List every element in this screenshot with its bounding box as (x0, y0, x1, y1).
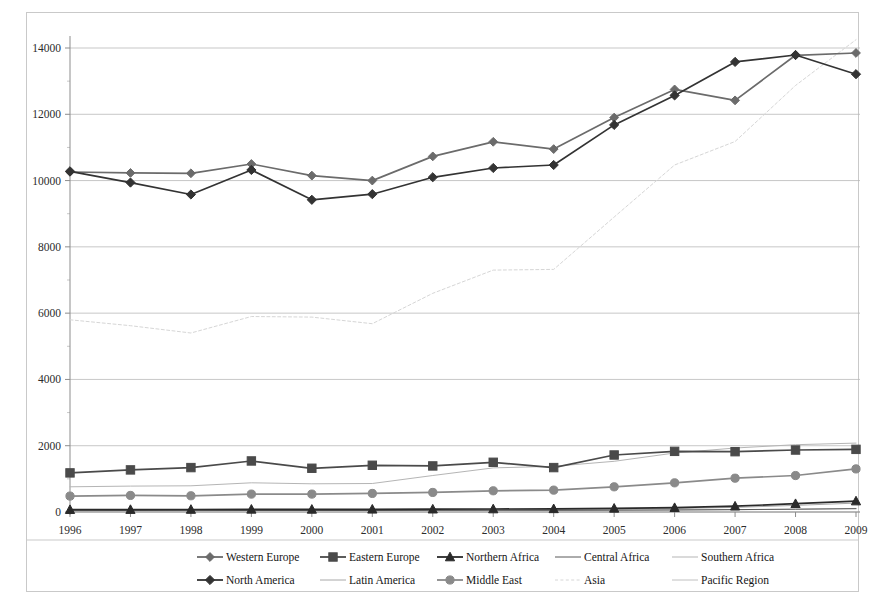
y-axis-tick-label: 10000 (32, 175, 61, 187)
legend-label: Southern Africa (701, 551, 774, 563)
y-axis-tick-label: 14000 (32, 42, 61, 54)
chart-series (70, 40, 856, 333)
series-line (70, 40, 856, 333)
x-axis-tick-label: 2005 (603, 524, 626, 536)
data-point-marker (852, 49, 861, 58)
legend-label: Central Africa (584, 551, 649, 563)
x-axis-tick-label: 1998 (179, 524, 202, 536)
data-point-marker (308, 490, 316, 498)
data-point-marker (549, 160, 558, 169)
y-axis-tick-label: 6000 (38, 307, 61, 319)
data-point-marker (65, 167, 74, 176)
data-point-marker (368, 190, 377, 199)
data-point-marker (368, 176, 377, 185)
data-point-marker (610, 120, 619, 129)
data-point-marker (187, 169, 196, 178)
data-point-marker (550, 486, 558, 494)
data-point-marker (731, 474, 739, 482)
x-axis-ticks: 1996199719981999200020012002200320042005… (59, 512, 868, 536)
x-axis-tick-label: 2002 (421, 524, 444, 536)
legend-label: Asia (584, 574, 605, 586)
x-axis-tick-label: 1996 (59, 524, 82, 536)
data-point-marker (308, 464, 316, 472)
data-point-marker (549, 463, 557, 471)
data-point-marker (791, 471, 799, 479)
series-line (70, 469, 856, 496)
data-point-marker (187, 492, 195, 500)
data-point-marker (126, 178, 135, 187)
legend-item[interactable]: Middle East (437, 574, 523, 586)
data-point-marker (731, 447, 739, 455)
x-axis-tick-label: 2007 (724, 524, 747, 536)
legend-item[interactable]: North America (197, 574, 295, 586)
legend-item[interactable]: Latin America (320, 574, 415, 586)
y-axis-tick-label: 4000 (38, 373, 61, 385)
data-point-marker (247, 457, 255, 465)
chart-series (65, 50, 860, 204)
data-point-marker (186, 190, 195, 199)
data-point-marker (446, 576, 454, 584)
legend-item[interactable]: Central Africa (555, 551, 649, 563)
data-point-marker (66, 492, 74, 500)
chart-series (66, 49, 861, 185)
data-point-marker (247, 490, 255, 498)
data-point-marker (66, 469, 74, 477)
legend-item[interactable]: Western Europe (197, 551, 299, 564)
data-point-marker (368, 461, 376, 469)
series-line (70, 55, 856, 200)
x-axis-tick-label: 2004 (542, 524, 565, 536)
legend-item[interactable]: Southern Africa (672, 551, 774, 563)
data-point-marker (126, 491, 134, 499)
legend-item[interactable]: Northern Africa (437, 551, 539, 563)
y-axis-tick-label: 2000 (38, 440, 61, 452)
data-point-marker (671, 479, 679, 487)
legend-label: Pacific Region (701, 574, 769, 587)
data-point-marker (489, 137, 498, 146)
data-point-marker (126, 169, 135, 178)
y-axis-tick-label: 8000 (38, 241, 61, 253)
data-point-marker (489, 458, 497, 466)
data-point-marker (852, 445, 860, 453)
data-point-marker (670, 447, 678, 455)
data-point-marker (329, 553, 337, 561)
data-point-marker (791, 446, 799, 454)
legend-label: Eastern Europe (349, 551, 420, 564)
legend-label: Western Europe (226, 551, 299, 564)
x-axis-tick-label: 1999 (240, 524, 263, 536)
legend-label: Middle East (466, 574, 523, 586)
legend-item[interactable]: Pacific Region (672, 574, 769, 587)
data-point-marker (429, 462, 437, 470)
data-point-marker (307, 171, 316, 180)
data-point-marker (206, 553, 215, 562)
data-point-marker (730, 57, 739, 66)
x-axis-tick-label: 2006 (663, 524, 686, 536)
data-point-marker (205, 575, 214, 584)
x-axis-tick-label: 2008 (784, 524, 807, 536)
legend-item[interactable]: Asia (555, 574, 605, 586)
series-line (70, 53, 856, 181)
chart-series (66, 445, 860, 477)
data-point-marker (428, 152, 437, 161)
data-point-marker (851, 70, 860, 79)
chart-root: 0200040006000800010000120001400019961997… (0, 0, 887, 614)
x-axis-tick-label: 2009 (845, 524, 868, 536)
data-point-marker (247, 165, 256, 174)
gridlines: 02000400060008000100001200014000 (32, 42, 860, 518)
x-axis-tick-label: 1997 (119, 524, 142, 536)
x-axis-tick-label: 2000 (300, 524, 323, 536)
data-point-marker (368, 489, 376, 497)
legend-label: Northern Africa (466, 551, 539, 563)
legend-item[interactable]: Eastern Europe (320, 551, 420, 564)
chart-series (66, 465, 860, 500)
chart-canvas: 0200040006000800010000120001400019961997… (0, 0, 887, 614)
y-axis-tick-label: 12000 (32, 108, 61, 120)
data-point-marker (126, 466, 134, 474)
y-axis-tick-label: 0 (55, 506, 61, 518)
x-axis-tick-label: 2001 (361, 524, 384, 536)
x-axis-tick-label: 2003 (482, 524, 505, 536)
data-point-marker (489, 487, 497, 495)
legend-label: Latin America (349, 574, 415, 586)
data-point-marker (187, 463, 195, 471)
data-point-marker (610, 451, 618, 459)
data-point-marker (429, 488, 437, 496)
